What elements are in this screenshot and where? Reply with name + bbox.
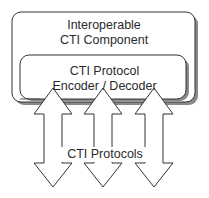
outer-box-title: Interoperable CTI Component <box>14 18 194 48</box>
inner-box-title-line1: CTI Protocol <box>22 64 187 79</box>
inner-box-title: CTI Protocol Encoder / Decoder <box>22 64 187 94</box>
outer-box-title-line1: Interoperable <box>14 18 194 33</box>
outer-box-title-line2: CTI Component <box>14 33 194 48</box>
cti-component-diagram: Interoperable CTI Component CTI Protocol… <box>0 0 209 198</box>
arrows-label: CTI Protocols <box>60 147 150 162</box>
inner-box-title-line2: Encoder / Decoder <box>22 79 187 94</box>
